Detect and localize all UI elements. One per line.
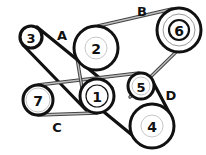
belt-label-c: C xyxy=(52,120,62,135)
pulley-2: 2 xyxy=(74,26,118,70)
belt-routing-diagram: 2 6 3 7 1 5 4 A B C D xyxy=(0,0,206,155)
belt-label-a: A xyxy=(57,28,67,43)
belt-1-to-4 xyxy=(104,112,132,135)
belt-label-b: B xyxy=(137,4,147,19)
pulley-4: 4 xyxy=(130,104,174,148)
pulley-7: 7 xyxy=(23,85,53,115)
belt-label-d: D xyxy=(166,88,177,103)
pulley-2-label: 2 xyxy=(91,41,101,57)
pulley-3-label: 3 xyxy=(26,31,35,46)
pulley-5-label: 5 xyxy=(136,80,145,95)
pulley-1: 1 xyxy=(80,79,114,113)
pulley-1-label: 1 xyxy=(92,89,102,105)
pulley-6: 6 xyxy=(157,8,201,52)
pulley-6-label: 6 xyxy=(174,23,184,39)
pulley-4-label: 4 xyxy=(147,119,157,135)
pulley-7-label: 7 xyxy=(33,93,43,109)
pulley-5: 5 xyxy=(128,73,154,99)
pulley-3: 3 xyxy=(20,26,42,48)
